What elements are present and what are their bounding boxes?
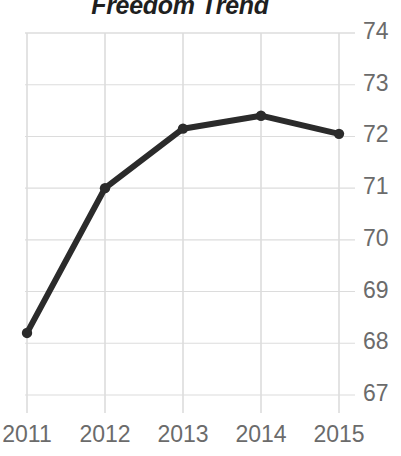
x-axis-tick-label: 2015: [313, 421, 364, 448]
x-axis-tick-label: 2011: [2, 421, 51, 448]
y-axis-tick-label: 70: [363, 225, 389, 252]
x-axis-tick-label: 2014: [235, 421, 286, 448]
y-axis-tick-label: 73: [363, 70, 389, 97]
y-axis-tick-label: 67: [363, 380, 389, 407]
y-axis-tick-label: 74: [363, 18, 389, 45]
x-axis-tick-label: 2013: [157, 421, 208, 448]
y-axis-tick-label: 71: [363, 173, 389, 200]
data-point: [100, 183, 110, 193]
x-axis-tick-label: 2012: [79, 421, 130, 448]
freedom-trend-chart: Freedom Trend 6768697071727374 201120122…: [0, 0, 401, 456]
grid-lines: [25, 33, 355, 413]
data-point: [334, 129, 344, 139]
data-point: [256, 111, 266, 121]
data-point: [178, 123, 188, 133]
y-axis-tick-label: 69: [363, 277, 389, 304]
y-axis-tick-label: 72: [363, 121, 389, 148]
y-axis-tick-label: 68: [363, 328, 389, 355]
data-point: [22, 328, 32, 338]
plot-area: [0, 0, 401, 456]
